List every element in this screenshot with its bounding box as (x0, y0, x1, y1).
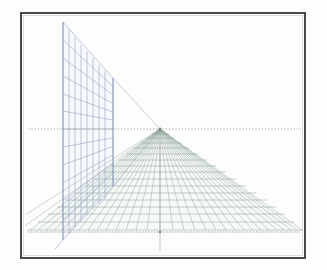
perspective-grid-svg (0, 0, 327, 270)
station-point-marker (159, 231, 161, 233)
perspective-figure (0, 0, 327, 270)
scanned-page: One-point perspective grid VP (0, 0, 327, 270)
vanishing-point-marker (159, 128, 162, 131)
wall-base-extension (55, 240, 63, 249)
